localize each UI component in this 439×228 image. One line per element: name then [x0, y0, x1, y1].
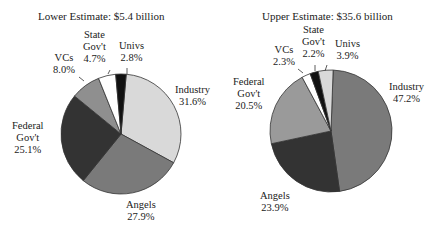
right-label-state-govt: State Gov't 2.2%: [302, 24, 325, 60]
lower-estimate-title: Lower Estimate: $5.4 billion: [38, 10, 164, 22]
right-label-federal-govt: Federal Gov't 20.5%: [233, 76, 265, 112]
leader-line: [108, 70, 110, 74]
upper-estimate-title: Upper Estimate: $35.6 billion: [262, 10, 393, 22]
right-label-univs: Univs 3.9%: [335, 38, 360, 62]
left-label-federal-govt: Federal Gov't 25.1%: [12, 120, 44, 156]
pie-slice-industry: [331, 70, 392, 191]
left-label-state-govt: State Gov't 4.7%: [83, 29, 106, 65]
leader-line: [79, 77, 84, 81]
leader-line: [298, 69, 303, 73]
right-label-angels: Angels 23.9%: [260, 190, 290, 214]
left-label-industry: Industry 31.6%: [175, 84, 210, 108]
pie-charts-canvas: [0, 0, 439, 228]
left-label-vcs: VCs 8.0%: [53, 52, 75, 76]
upper-estimate-pie: [270, 70, 392, 192]
left-label-angels: Angels 27.9%: [126, 199, 156, 223]
right-label-vcs: VCs 2.3%: [273, 44, 295, 68]
lower-estimate-pie: [61, 74, 181, 194]
left-label-univs: Univs 2.8%: [119, 40, 144, 64]
right-label-industry: Industry 47.2%: [389, 81, 424, 105]
